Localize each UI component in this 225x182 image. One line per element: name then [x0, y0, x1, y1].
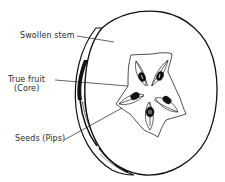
- label-swollen-stem: Swollen stem: [20, 31, 75, 40]
- label-true-fruit-subtext: (Core): [8, 84, 45, 93]
- label-seeds: Seeds (Pips): [15, 134, 65, 143]
- label-swollen-stem-text: Swollen stem: [20, 31, 75, 40]
- label-seeds-text: Seeds (Pips): [15, 134, 65, 143]
- label-true-fruit: True fruit (Core): [8, 75, 45, 93]
- label-true-fruit-text: True fruit: [8, 75, 45, 84]
- apple-cross-section-diagram: Swollen stem True fruit (Core) Seeds (Pi…: [0, 0, 225, 182]
- seed-4: [146, 107, 154, 117]
